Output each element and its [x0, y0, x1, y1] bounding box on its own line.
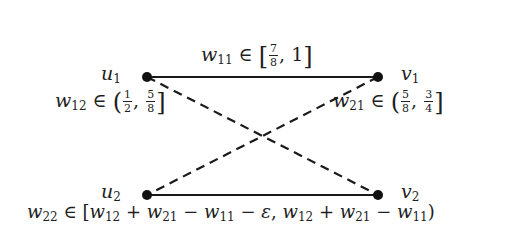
- node-u2: [142, 190, 152, 200]
- edge-label-w22: w22 ∈ [w12 + w21 − w11 − ε, w12 + w21 − …: [27, 203, 435, 223]
- node-v1: [373, 72, 383, 82]
- node-label-v1: v1: [401, 64, 419, 85]
- fraction: 34: [424, 89, 433, 114]
- fraction: 58: [401, 89, 410, 114]
- node-v2: [373, 190, 383, 200]
- node-label-u2: u2: [101, 182, 121, 203]
- edge-label-w21: w21 ∈ (58, 34]: [333, 89, 444, 114]
- edge-label-w12: w12 ∈ (12, 58]: [55, 89, 166, 114]
- node-label-u1: u1: [101, 64, 121, 85]
- node-label-v2: v2: [401, 182, 419, 203]
- node-u1: [142, 72, 152, 82]
- fraction: 78: [269, 43, 278, 68]
- edge-label-w11: w11 ∈ [78, 1]: [201, 43, 313, 68]
- fraction: 58: [146, 89, 155, 114]
- fraction: 12: [123, 89, 132, 114]
